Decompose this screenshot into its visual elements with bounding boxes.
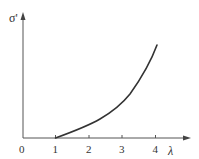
x-tick-label-1: 1 [53,143,59,155]
x-axis-arrow-icon [183,136,191,141]
y-axis-label: σ' [9,11,18,25]
x-tick-label-0: 0 [19,143,25,155]
x-axis-label: λ [167,144,173,158]
x-tick-label-4: 4 [153,143,159,155]
x-tick-label-3: 3 [119,143,125,155]
chart: 0 1 2 3 4 λ σ' [0,0,199,159]
x-tick-label-2: 2 [86,143,92,155]
sigma-lambda-curve [56,45,158,138]
y-axis-arrow-icon [21,12,26,20]
